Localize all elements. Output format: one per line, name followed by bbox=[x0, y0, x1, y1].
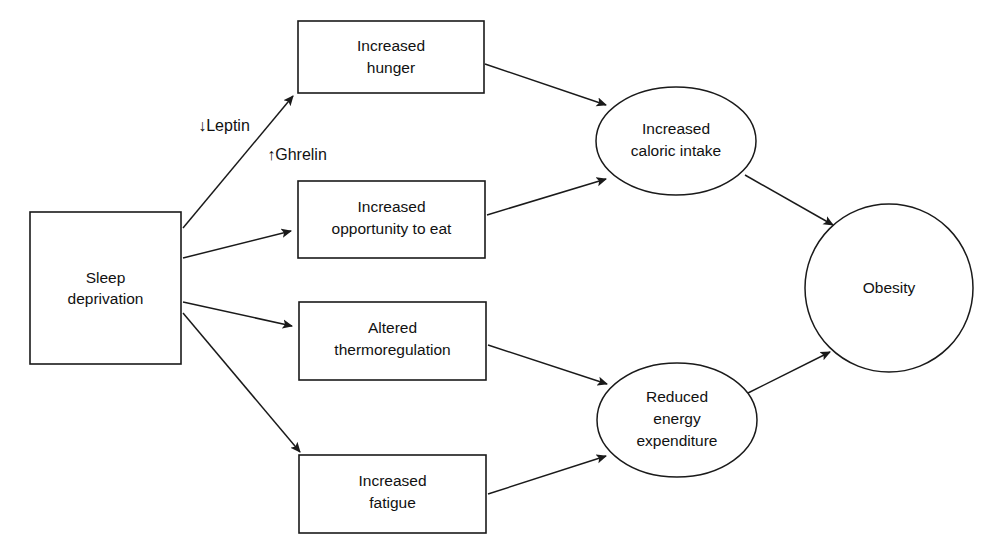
node-obesity[interactable]: Obesity bbox=[805, 204, 973, 372]
increased-opportunity-to-eat-label: Increased bbox=[357, 198, 425, 215]
reduced-energy-expenditure-label-line2: energy bbox=[653, 410, 701, 427]
obesity-label: Obesity bbox=[863, 279, 916, 296]
node-increased-caloric-intake[interactable]: Increased caloric intake bbox=[596, 87, 756, 195]
increased-hunger-label-line2: hunger bbox=[367, 59, 415, 76]
node-altered-thermoregulation[interactable]: Altered thermoregulation bbox=[299, 302, 486, 380]
increased-hunger-label: Increased bbox=[357, 37, 425, 54]
altered-thermoregulation-label: Altered bbox=[368, 319, 417, 336]
edge-sleep-to-thermoregulation bbox=[183, 302, 292, 326]
increased-fatigue-label-line2: fatigue bbox=[369, 494, 416, 511]
increased-opportunity-to-eat-label-line2: opportunity to eat bbox=[332, 220, 452, 237]
edge-energy-expenditure-to-obesity bbox=[748, 352, 830, 393]
sleep-deprivation-label: Sleep bbox=[86, 269, 126, 286]
sleep-deprivation-label-line2: deprivation bbox=[68, 290, 144, 307]
reduced-energy-expenditure-label-line3: expenditure bbox=[636, 432, 717, 449]
altered-thermoregulation-label-line2: thermoregulation bbox=[334, 341, 450, 358]
edge-thermoregulation-to-energy-expenditure bbox=[488, 345, 607, 384]
edge-sleep-to-opportunity bbox=[183, 231, 291, 258]
increased-caloric-intake-label: Increased bbox=[642, 120, 710, 137]
increased-caloric-intake-ellipse[interactable] bbox=[596, 87, 756, 195]
increased-caloric-intake-label-line2: caloric intake bbox=[631, 142, 721, 159]
edge-caloric-intake-to-obesity bbox=[745, 175, 833, 225]
edge-opportunity-to-caloric-intake bbox=[487, 179, 606, 215]
node-sleep-deprivation[interactable]: Sleep deprivation bbox=[30, 212, 181, 364]
edge-hunger-to-caloric-intake bbox=[485, 64, 606, 105]
sleep-deprivation-box[interactable] bbox=[30, 212, 181, 364]
ghrelin-edge-label: ↑Ghrelin bbox=[267, 146, 327, 163]
node-reduced-energy-expenditure[interactable]: Reduced energy expenditure bbox=[597, 363, 757, 477]
edge-sleep-to-fatigue bbox=[183, 313, 300, 452]
node-increased-fatigue[interactable]: Increased fatigue bbox=[299, 455, 486, 533]
edge-labels-layer: ↓Leptin ↑Ghrelin bbox=[198, 117, 327, 163]
reduced-energy-expenditure-label: Reduced bbox=[646, 388, 708, 405]
leptin-edge-label: ↓Leptin bbox=[198, 117, 250, 134]
diagram-canvas: Sleep deprivation Increased hunger Incre… bbox=[0, 0, 1006, 558]
node-increased-hunger[interactable]: Increased hunger bbox=[298, 21, 484, 93]
node-increased-opportunity-to-eat[interactable]: Increased opportunity to eat bbox=[298, 181, 485, 258]
pathway-diagram: Sleep deprivation Increased hunger Incre… bbox=[0, 0, 1006, 558]
edge-fatigue-to-energy-expenditure bbox=[488, 456, 606, 494]
increased-hunger-box[interactable] bbox=[298, 21, 484, 93]
increased-fatigue-label: Increased bbox=[358, 472, 426, 489]
